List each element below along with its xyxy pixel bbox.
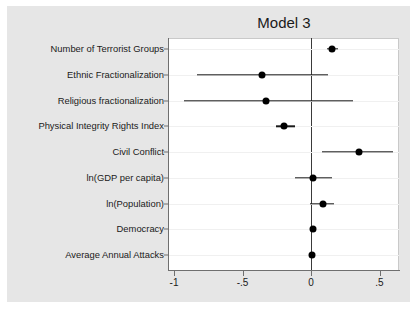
row-gridline [169, 229, 399, 230]
x-axis-tick-label: -.5 [237, 277, 249, 288]
y-axis-tick [164, 74, 169, 75]
y-axis-label: Civil Conflict [112, 147, 164, 156]
y-axis-tick [164, 229, 169, 230]
point-estimate-marker [310, 226, 317, 233]
row-gridline [169, 49, 399, 50]
point-estimate-marker [355, 149, 362, 156]
y-axis-label: Number of Terrorist Groups [51, 44, 164, 53]
y-axis-label: Average Annual Attacks [65, 250, 164, 259]
coefficient-plot-figure: Model 3 Number of Terrorist GroupsEthnic… [0, 0, 417, 313]
y-axis-label: ln(GDP per capita) [87, 173, 164, 182]
x-axis-tick [243, 271, 244, 276]
y-axis-label: ln(Population) [106, 199, 164, 208]
point-estimate-marker [310, 174, 317, 181]
y-axis-tick [164, 49, 169, 50]
row-gridline [169, 255, 399, 256]
point-estimate-marker [308, 252, 315, 259]
y-axis-tick [164, 177, 169, 178]
zero-reference-line [311, 38, 312, 270]
x-axis-tick-label: -1 [170, 277, 179, 288]
y-axis-label: Physical Integrity Rights Index [38, 122, 164, 131]
y-axis-label: Religious fractionalization [58, 96, 164, 105]
x-axis-tick-label: .5 [375, 277, 383, 288]
point-estimate-marker [329, 46, 336, 53]
x-axis-line [168, 270, 400, 271]
row-gridline [169, 204, 399, 205]
y-axis-tick [164, 126, 169, 127]
x-axis-tick-label: 0 [308, 277, 314, 288]
row-gridline [169, 178, 399, 179]
y-axis-label: Democracy [117, 225, 164, 234]
x-axis-tick [311, 271, 312, 276]
y-axis-tick [164, 100, 169, 101]
y-axis-tick [164, 152, 169, 153]
point-estimate-marker [319, 200, 326, 207]
x-axis-tick [174, 271, 175, 276]
y-axis-tick [164, 203, 169, 204]
y-axis-line [168, 38, 169, 271]
point-estimate-marker [281, 123, 288, 130]
point-estimate-marker [263, 97, 270, 104]
plot-region [169, 38, 399, 270]
x-axis-tick [380, 271, 381, 276]
y-axis-label: Ethnic Fractionalization [67, 70, 164, 79]
y-axis-tick [164, 255, 169, 256]
point-estimate-marker [259, 71, 266, 78]
page-title: Model 3 [169, 14, 399, 31]
